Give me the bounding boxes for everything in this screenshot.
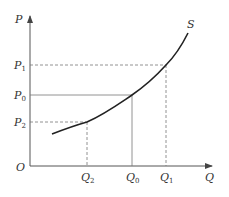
p2-label: P2 — [13, 116, 26, 130]
origin-label: O — [16, 161, 25, 174]
p1-label: P1 — [13, 59, 26, 73]
supply-curve — [52, 33, 188, 134]
q2-label: Q2 — [81, 171, 95, 185]
guide-p1-q1 — [30, 65, 166, 166]
y-axis-label: P — [14, 13, 23, 26]
p0-label: P0 — [13, 89, 26, 103]
q0-label: Q0 — [126, 171, 140, 185]
supply-diagram: P Q O S P1 P0 P2 Q2 Q0 Q1 — [0, 0, 229, 197]
q1-label: Q1 — [160, 171, 174, 185]
curve-label: S — [187, 18, 195, 31]
x-axis-label: Q — [205, 171, 214, 184]
guide-p2-q2 — [30, 122, 87, 166]
